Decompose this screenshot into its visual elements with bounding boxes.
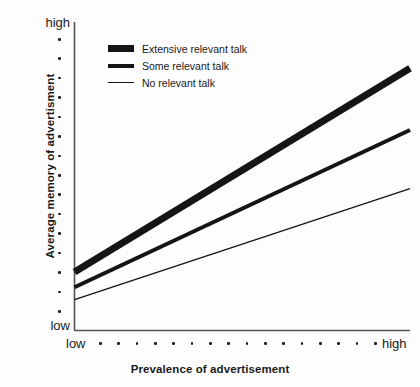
legend-label: Extensive relevant talk: [142, 43, 247, 55]
series-line: [75, 130, 411, 287]
thick-line-swatch-icon: [108, 45, 134, 52]
legend-item-extensive-relevant-talk: Extensive relevant talk: [108, 40, 247, 57]
legend-item-no-relevant-talk: No relevant talk: [108, 74, 247, 91]
legend-item-some-relevant-talk: Some relevant talk: [108, 57, 247, 74]
thin-line-swatch-icon: [108, 82, 134, 83]
series-group: [75, 68, 411, 299]
legend-label: No relevant talk: [142, 77, 215, 89]
chart-legend: Extensive relevant talk Some relevant ta…: [108, 40, 247, 91]
series-line: [75, 68, 411, 272]
legend-label: Some relevant talk: [142, 60, 229, 72]
chart-container: Average memory of advertisment high low …: [0, 0, 420, 387]
medium-line-swatch-icon: [108, 64, 134, 68]
